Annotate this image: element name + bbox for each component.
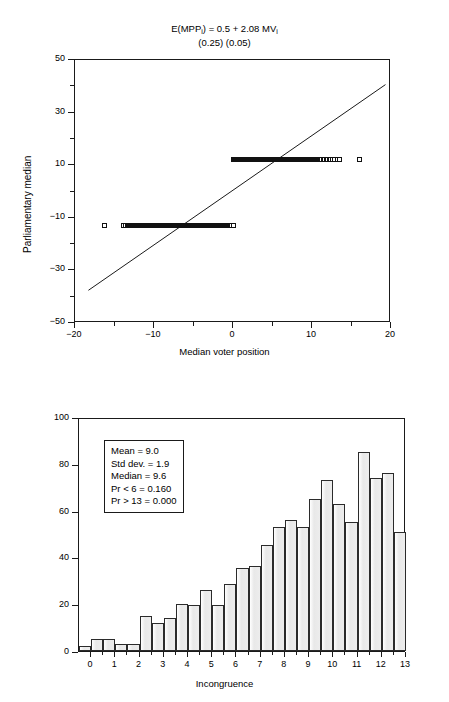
scatter-y-tick-label: 10 [0,159,65,168]
histogram-y-tick [72,512,78,513]
histogram-x-tick [308,652,309,657]
histogram-x-tick-minor [102,652,103,655]
scatter-plot-area [74,59,390,322]
scatter-y-tick-major [68,164,74,165]
histogram-x-tick-minor [126,652,127,655]
scatter-y-tick-major [68,269,74,270]
histogram-x-tick-minor [248,652,249,655]
histogram-x-tick [357,652,358,657]
histogram-x-tick [163,652,164,657]
histogram-y-tick-label: 0 [0,647,69,656]
histogram-bar [103,639,115,651]
histogram-x-tick-minor [223,652,224,655]
histogram-bar [152,623,164,651]
scatter-x-tick-minor [114,322,115,326]
histogram-bar [382,473,394,651]
histogram-bar [212,605,224,651]
scatter-x-tick-major [153,322,154,328]
histogram-y-tick [72,558,78,559]
histogram-bar [91,639,103,651]
scatter-y-tick-major [68,112,74,113]
histogram-y-tick-label: 80 [0,460,69,469]
histogram-x-tick [284,652,285,657]
histogram-bar [321,480,333,651]
histogram-bar [345,522,357,651]
scatter-point [102,223,107,228]
histogram-y-tick [72,652,78,653]
histogram-x-axis-title: Incongruence [0,678,449,689]
histogram-y-tick-label: 40 [0,553,69,562]
scatter-x-tick-label: 10 [297,330,325,339]
statistics-box: Mean = 9.0 Std dev. = 1.9 Median = 9.6 P… [104,440,184,513]
figure-page: E(MPPi) = 0.5 + 2.08 MVi (0.25) (0.05) P… [0,0,449,702]
histogram-plot-area: Mean = 9.0 Std dev. = 1.9 Median = 9.6 P… [78,418,405,652]
histogram-x-tick-minor [175,652,176,655]
scatter-x-tick-label: 0 [218,330,246,339]
histogram-x-tick [139,652,140,657]
histogram-bar [115,644,127,651]
scatter-y-tick-minor [70,191,74,192]
regression-line [75,60,391,323]
scatter-y-tick-label: −10 [0,212,65,221]
histogram-bar [297,527,309,651]
histogram-x-tick-minor [320,652,321,655]
scatter-y-tick-major [68,59,74,60]
histogram-y-tick [72,605,78,606]
scatter-y-tick-major [68,217,74,218]
histogram-bar [249,566,261,651]
scatter-point [357,157,362,162]
scatter-x-tick-major [390,322,391,328]
scatter-title: E(MPPi) = 0.5 + 2.08 MVi (0.25) (0.05) [0,22,449,49]
scatter-x-tick-label: −10 [139,330,167,339]
scatter-y-tick-label: −50 [0,317,65,326]
histogram-bar [176,604,188,651]
histogram-x-tick [187,652,188,657]
stat-mean: Mean = 9.0 [111,445,177,458]
histogram-y-tick-label: 100 [0,413,69,422]
histogram-x-tick-minor [272,652,273,655]
scatter-title-line1: E(MPPi) = 0.5 + 2.08 MVi [171,23,278,34]
histogram-x-tick-minor [369,652,370,655]
scatter-x-tick-major [311,322,312,328]
scatter-x-tick-major [232,322,233,328]
histogram-x-tick-label: 13 [391,660,419,669]
histogram-bar [309,499,321,651]
scatter-x-tick-minor [272,322,273,326]
scatter-x-tick-minor [351,322,352,326]
scatter-y-tick-minor [70,296,74,297]
scatter-title-line2: (0.25) (0.05) [0,36,449,49]
histogram-bar [370,478,382,651]
histogram-x-tick [260,652,261,657]
histogram-x-tick [381,652,382,657]
scatter-x-tick-label: −20 [60,330,88,339]
histogram-bar [224,584,236,651]
histogram-bar [164,618,176,651]
histogram-bar [236,568,248,651]
scatter-x-axis-title: Median voter position [0,346,449,357]
stat-std-dev: Std dev. = 1.9 [111,458,177,471]
histogram-y-tick [72,418,78,419]
scatter-point [231,223,236,228]
histogram-bar [273,527,285,651]
histogram-bar [140,616,152,651]
histogram-bar [261,545,273,651]
histogram-bar [127,644,139,651]
scatter-y-tick-label: −30 [0,264,65,273]
histogram-bar [188,605,200,651]
histogram-y-tick-label: 60 [0,507,69,516]
histogram-x-tick [235,652,236,657]
histogram-x-tick [114,652,115,657]
scatter-x-tick-major [74,322,75,328]
scatter-y-tick-minor [70,85,74,86]
histogram-x-tick [211,652,212,657]
scatter-y-tick-minor [70,138,74,139]
histogram-x-tick [90,652,91,657]
histogram-x-tick [332,652,333,657]
histogram-bar [358,452,370,651]
histogram-y-tick-label: 20 [0,600,69,609]
scatter-y-tick-minor [70,243,74,244]
histogram-x-tick-minor [393,652,394,655]
scatter-y-tick-label: 50 [0,54,65,63]
histogram-x-tick-minor [296,652,297,655]
histogram-x-tick-minor [151,652,152,655]
